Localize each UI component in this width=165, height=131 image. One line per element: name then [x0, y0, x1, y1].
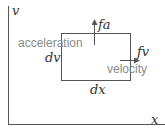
acceleration-caption: acceleration — [18, 37, 83, 49]
x-axis-label: x — [151, 113, 158, 126]
dv-label: dv — [45, 51, 61, 64]
flux-v-label: fv — [137, 45, 149, 58]
phase-space-diagram: v x fa acceleration dv fv velocity dx — [0, 0, 165, 131]
dx-label: dx — [90, 83, 106, 96]
velocity-caption: velocity — [107, 63, 147, 75]
y-axis-label: v — [12, 4, 19, 17]
flux-a-label: fa — [98, 18, 111, 31]
